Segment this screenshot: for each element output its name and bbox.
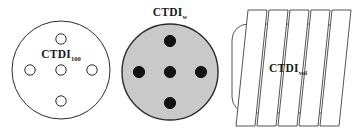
- hole-center-ctdi100: [56, 65, 66, 75]
- panel-ctdivol: CTDIvol: [232, 10, 351, 126]
- panel-ctdi100: CTDI100: [12, 21, 110, 119]
- hole-east-ctdiw: [195, 66, 206, 77]
- hole-east-ctdi100: [87, 65, 97, 75]
- hole-south-ctdiw: [164, 97, 175, 108]
- panel-ctdiw: CTDIw: [122, 6, 218, 120]
- hole-north-ctdiw: [164, 35, 175, 46]
- label-ctdiw-sub: w: [182, 13, 187, 20]
- label-ctdivol-main: CTDI: [269, 62, 299, 74]
- hole-north-ctdi100: [56, 34, 66, 44]
- hole-south-ctdi100: [56, 96, 66, 106]
- ctdi-figure-canvas: CTDI100 CTDIw CTDIvol: [0, 0, 353, 132]
- label-ctdivol-sub: vol: [299, 69, 308, 76]
- hole-west-ctdiw: [133, 66, 144, 77]
- label-ctdi100-sub: 100: [71, 55, 81, 62]
- label-ctdiw-main: CTDI: [153, 6, 183, 18]
- hole-center-ctdiw: [164, 66, 175, 77]
- hole-west-ctdi100: [25, 65, 35, 75]
- ctdi-figure-container: CTDI100 CTDIw CTDIvol: [0, 0, 353, 132]
- label-ctdi100-main: CTDI: [41, 48, 71, 60]
- label-ctdiw: CTDIw: [153, 6, 188, 20]
